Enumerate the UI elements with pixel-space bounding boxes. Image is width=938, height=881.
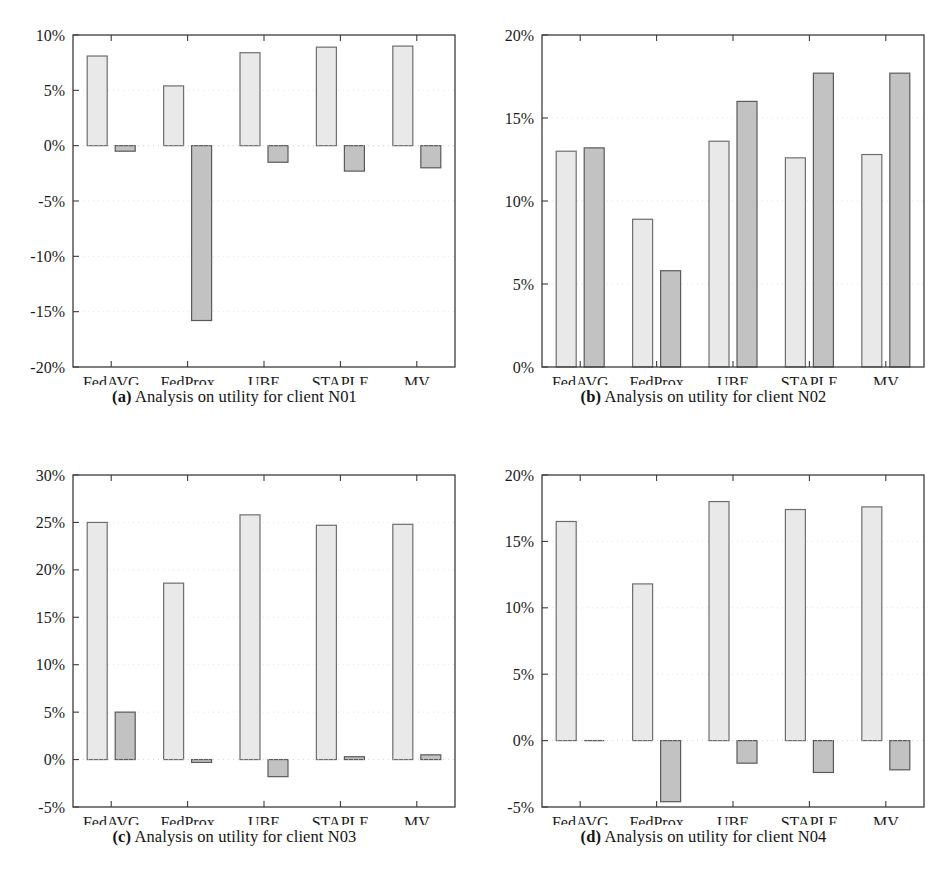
x-tick-label: MV — [404, 374, 430, 385]
y-tick-label: 25% — [36, 514, 65, 531]
y-axis-a: 10%5%0%-5%-10%-15%-20% — [30, 27, 79, 376]
y-tick-label: -10% — [30, 248, 65, 265]
y-tick-label: 5% — [513, 666, 534, 683]
x-tick-label: FedAVG — [552, 814, 609, 825]
y-tick-label: 10% — [505, 599, 534, 616]
caption-b: (b) Analysis on utility for client N02 — [581, 387, 827, 407]
chart-d: 20%15%10%5%0%-5%FedAVGFedProxUBESTAPLEMV — [469, 440, 938, 825]
caption-b-text: Analysis on utility for client N02 — [604, 387, 826, 406]
bars-a — [87, 46, 441, 320]
x-tick-label: STAPLE — [312, 374, 369, 385]
caption-a: (a) Analysis on utility for client N01 — [112, 387, 357, 407]
chart-svg-c: 30%25%20%15%10%5%0%-5%FedAVGFedProxUBEST… — [0, 440, 469, 825]
y-tick-label: 5% — [44, 704, 65, 721]
x-tick-label: FedAVG — [83, 374, 140, 385]
caption-a-tag: (a) — [112, 387, 132, 406]
y-tick-label: 20% — [505, 467, 534, 484]
y-tick-label: -20% — [30, 359, 65, 376]
caption-a-text: Analysis on utility for client N01 — [135, 387, 357, 406]
y-tick-label: -15% — [30, 303, 65, 320]
y-tick-label: -5% — [507, 799, 534, 816]
chart-svg-a: 10%5%0%-5%-10%-15%-20%FedAVGFedProxUBEST… — [0, 0, 469, 385]
x-tick-label: UBE — [248, 374, 280, 385]
x-tick-label: UBE — [717, 814, 749, 825]
y-tick-label: 5% — [513, 276, 534, 293]
y-tick-label: 15% — [36, 609, 65, 626]
x-tick-label: MV — [404, 814, 430, 825]
y-tick-label: 0% — [513, 732, 534, 749]
caption-d-tag: (d) — [581, 827, 601, 846]
x-tick-label: UBE — [248, 814, 280, 825]
y-tick-label: -5% — [38, 193, 65, 210]
chart-svg-b: 20%15%10%5%0%FedAVGFedProxUBESTAPLEMV — [469, 0, 938, 385]
x-tick-label: MV — [873, 374, 899, 385]
bars-c — [87, 515, 441, 777]
chart-a: 10%5%0%-5%-10%-15%-20%FedAVGFedProxUBEST… — [0, 0, 469, 385]
panel-d: 20%15%10%5%0%-5%FedAVGFedProxUBESTAPLEMV… — [469, 440, 938, 881]
y-tick-label: 10% — [36, 656, 65, 673]
caption-b-tag: (b) — [581, 387, 601, 406]
x-tick-label: STAPLE — [781, 374, 838, 385]
panel-b: 20%15%10%5%0%FedAVGFedProxUBESTAPLEMV (b… — [469, 0, 938, 440]
y-tick-label: -5% — [38, 799, 65, 816]
x-tick-label: FedProx — [629, 374, 683, 385]
caption-c-text: Analysis on utility for client N03 — [134, 827, 356, 846]
chart-svg-d: 20%15%10%5%0%-5%FedAVGFedProxUBESTAPLEMV — [469, 440, 938, 825]
x-tick-label: MV — [873, 814, 899, 825]
chart-c: 30%25%20%15%10%5%0%-5%FedAVGFedProxUBEST… — [0, 440, 469, 825]
caption-d-text: Analysis on utility for client N04 — [604, 827, 826, 846]
x-tick-label: STAPLE — [312, 814, 369, 825]
y-tick-label: 10% — [36, 27, 65, 44]
caption-c: (c) Analysis on utility for client N03 — [113, 827, 357, 847]
x-tick-label: FedProx — [629, 814, 683, 825]
chart-b: 20%15%10%5%0%FedAVGFedProxUBESTAPLEMV — [469, 0, 938, 385]
caption-c-tag: (c) — [113, 827, 132, 846]
y-tick-label: 30% — [36, 467, 65, 484]
y-tick-label: 10% — [505, 193, 534, 210]
y-tick-label: 20% — [36, 561, 65, 578]
caption-d: (d) Analysis on utility for client N04 — [581, 827, 827, 847]
x-tick-label: FedProx — [160, 374, 214, 385]
bars-d — [556, 502, 910, 802]
y-tick-label: 15% — [505, 110, 534, 127]
panel-a: 10%5%0%-5%-10%-15%-20%FedAVGFedProxUBEST… — [0, 0, 469, 440]
bars-b — [556, 73, 910, 367]
x-tick-label: UBE — [717, 374, 749, 385]
x-tick-label: FedAVG — [552, 374, 609, 385]
y-tick-label: 0% — [513, 359, 534, 376]
x-tick-label: STAPLE — [781, 814, 838, 825]
y-tick-label: 15% — [505, 533, 534, 550]
y-tick-label: 20% — [505, 27, 534, 44]
panel-c: 30%25%20%15%10%5%0%-5%FedAVGFedProxUBEST… — [0, 440, 469, 881]
figure-grid: 10%5%0%-5%-10%-15%-20%FedAVGFedProxUBEST… — [0, 0, 938, 881]
y-tick-label: 5% — [44, 82, 65, 99]
y-tick-label: 0% — [44, 137, 65, 154]
x-tick-label: FedProx — [160, 814, 214, 825]
y-tick-label: 0% — [44, 751, 65, 768]
x-tick-label: FedAVG — [83, 814, 140, 825]
